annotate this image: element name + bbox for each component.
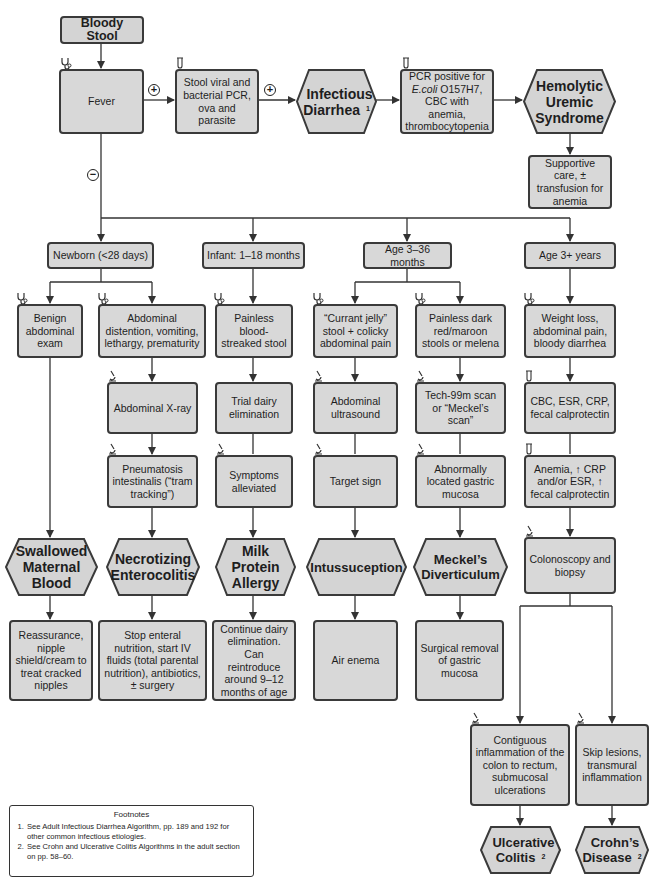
- node-pcr-positive: PCR positive for E.coli O157H7, CBC with…: [400, 69, 494, 134]
- node-skip-lesions: Skip lesions, transmural inflammation: [575, 724, 649, 806]
- test-tube-icon: [523, 368, 535, 380]
- stethoscope-icon: [523, 290, 535, 302]
- microscope-icon: [414, 441, 426, 453]
- node-supportive-care: Supportive care, ± transfusion for anemi…: [528, 155, 612, 209]
- node-abnormal-mucosa: Abnormally located gastric mucosa: [415, 455, 506, 508]
- diagnosis-intussusception: Intussuception: [306, 538, 407, 596]
- footnote-item: See Crohn and Ulcerative Colitis Algorit…: [26, 842, 247, 862]
- node-colonoscopy: Colonoscopy and biopsy: [524, 537, 616, 594]
- node-labs: CBC, ESR, CRP, fecal calprotectin: [524, 382, 616, 434]
- node-symptoms-alleviated: Symptoms alleviated: [215, 455, 293, 508]
- stethoscope-icon: [97, 290, 109, 302]
- positive-sign: +: [148, 84, 160, 96]
- node-tech-scan: Tech-99m scan or “Meckel’s scan”: [415, 382, 506, 434]
- node-contiguous-inflammation: Contiguous inflammation of the colon to …: [470, 724, 570, 806]
- microscope-icon: [106, 441, 118, 453]
- diagnosis-crohns-disease: Crohn’s Disease2: [575, 826, 649, 874]
- node-anemia-crp: Anemia, ↑ CRP and/or ESR, ↑ fecal calpro…: [524, 455, 616, 508]
- node-trial-dairy: Trial dairy elimination: [215, 382, 293, 434]
- microscope-icon: [106, 368, 118, 380]
- age-3-plus-years: Age 3+ years: [524, 242, 616, 269]
- stethoscope-icon: [414, 290, 426, 302]
- test-tube-icon: [523, 441, 535, 453]
- microscope-icon: [414, 368, 426, 380]
- node-painless-blood-streaked: Painless blood-streaked stool: [215, 304, 293, 358]
- negative-sign: −: [87, 169, 99, 181]
- node-currant-jelly: “Currant jelly” stool + colicky abdomina…: [313, 304, 398, 358]
- node-fever: Fever: [59, 69, 144, 134]
- diagnosis-hemolytic-uremic-syndrome: Hemolytic Uremic Syndrome: [523, 69, 616, 134]
- footnote-item: See Adult Infectious Diarrhea Algorithm,…: [26, 822, 247, 842]
- management-stop-enteral: Stop enteral nutrition, start IV fluids …: [98, 620, 207, 701]
- diagnosis-milk-protein-allergy: Milk Protein Allergy: [215, 538, 296, 596]
- age-infant: Infant: 1–18 months: [202, 242, 305, 269]
- stethoscope-icon: [213, 290, 225, 302]
- node-painless-dark: Painless dark red/maroon stools or melen…: [415, 304, 506, 358]
- test-tube-icon: [400, 55, 412, 67]
- stethoscope-icon: [16, 290, 28, 302]
- node-weight-loss: Weight loss, abdominal pain, bloody diar…: [524, 304, 616, 358]
- management-reassurance: Reassurance, nipple shield/cream to trea…: [9, 620, 93, 701]
- diagnosis-meckels-diverticulum: Meckel’s Diverticulum: [413, 538, 508, 596]
- diagnosis-necrotizing-enterocolitis: Necrotizing Enterocolitis: [106, 538, 200, 596]
- stethoscope-icon: [60, 55, 72, 67]
- node-abdominal-xray: Abdominal X-ray: [107, 382, 198, 434]
- age-3-36-months: Age 3–36 months: [363, 242, 452, 269]
- management-air-enema: Air enema: [313, 620, 398, 701]
- microscope-icon: [574, 710, 586, 722]
- node-pneumatosis: Pneumatosis intestinalis (“tram tracking…: [107, 455, 198, 508]
- node-benign-exam: Benign abdominal exam: [17, 304, 83, 358]
- node-target-sign: Target sign: [313, 455, 398, 508]
- diagnosis-infectious-diarrhea: Infectious Diarrhea1: [296, 69, 377, 134]
- stethoscope-icon: [312, 290, 324, 302]
- footnotes-title: Footnotes: [16, 810, 247, 820]
- node-abdominal-ultrasound: Abdominal ultrasound: [313, 382, 398, 434]
- management-surgical-removal: Surgical removal of gastric mucosa: [415, 620, 504, 701]
- microscope-icon: [523, 523, 535, 535]
- diagnosis-ulcerative-colitis: Ulcerative Colitis2: [480, 826, 561, 874]
- age-newborn: Newborn (<28 days): [47, 242, 154, 269]
- node-abdominal-distention: Abdominal distention, vomiting, lethargy…: [98, 304, 206, 358]
- test-tube-icon: [174, 55, 186, 67]
- microscope-icon: [214, 441, 226, 453]
- microscope-icon: [469, 710, 481, 722]
- management-continue-dairy: Continue dairy elimination. Can reintrod…: [212, 620, 296, 701]
- microscope-icon: [312, 441, 324, 453]
- diagnosis-swallowed-maternal-blood: Swallowed Maternal Blood: [5, 538, 98, 596]
- node-stool-pcr: Stool viral and bacterial PCR, ova and p…: [175, 69, 259, 134]
- positive-sign: +: [264, 84, 276, 96]
- start-node-bloody-stool: Bloody Stool: [60, 16, 144, 44]
- footnotes-box: Footnotes See Adult Infectious Diarrhea …: [9, 805, 254, 877]
- microscope-icon: [312, 368, 324, 380]
